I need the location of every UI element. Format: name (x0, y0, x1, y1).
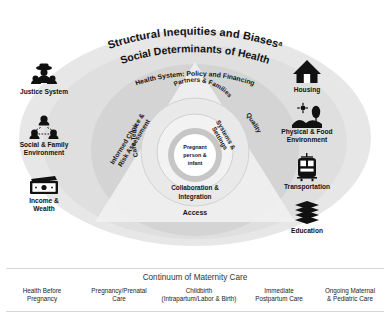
continuum-stage-line1: Health Before (6, 287, 78, 295)
core-label-line1: Pregnant (183, 144, 207, 150)
money-banknote-icon (30, 176, 58, 194)
determinant-line1: Transportation (264, 183, 350, 191)
ring-label-collaboration: Collaboration & (171, 184, 219, 191)
continuum-stage-4: Immediate Postpartum Care (243, 287, 315, 303)
determinant-line1: Justice System (1, 88, 87, 96)
continuum-stage-1: Health Before Pregnancy (6, 287, 78, 303)
ring-label-integration: Integration (178, 193, 211, 201)
continuum-top-rule (6, 268, 384, 269)
continuum-stage-line1: Childbirth (156, 287, 242, 295)
core-label-line2: person & (183, 152, 206, 158)
continuum-stage-line2: Pregnancy (6, 295, 78, 303)
determinant-line2: Environment (264, 136, 350, 144)
determinant-label-housing: Housing (264, 86, 350, 94)
determinant-line2: Environment (1, 149, 87, 157)
diagram-canvas: Structural Inequities and Biasesa Social… (0, 0, 390, 319)
determinant-label-physical-food: Physical & Food Environment (264, 128, 350, 144)
determinant-line1: Housing (264, 86, 350, 94)
continuum-stage-line2: Postpartum Care (243, 295, 315, 303)
determinant-line1: Education (264, 227, 350, 235)
determinant-label-social-family: Social & Family Environment (1, 141, 87, 157)
core-label-line3: infant (188, 160, 203, 166)
continuum-stage-line1: Ongoing Maternal (313, 287, 387, 295)
continuum-stage-line2: & Pediatric Care (313, 295, 387, 303)
determinant-label-income-wealth: Income & Wealth (1, 197, 87, 213)
continuum-stage-line2: (Intrapartum/Labor & Birth) (156, 295, 242, 303)
triangle-bottom-label: Access (183, 209, 208, 216)
determinant-label-transportation: Transportation (264, 183, 350, 191)
continuum-stage-line1: Immediate (243, 287, 315, 295)
determinant-line1: Physical & Food (264, 128, 350, 136)
continuum-bottom-rule (6, 311, 384, 312)
determinant-line2: Wealth (1, 205, 87, 213)
continuum-title: Continuum of Maternity Care (0, 273, 390, 282)
determinant-label-justice-system: Justice System (1, 88, 87, 96)
continuum-stage-line1: Pregnancy/Prenatal (78, 287, 160, 295)
continuum-stage-2: Pregnancy/Prenatal Care (78, 287, 160, 303)
continuum-stage-3: Childbirth (Intrapartum/Labor & Birth) (156, 287, 242, 303)
determinant-label-education: Education (264, 227, 350, 235)
continuum-stage-line2: Care (78, 295, 160, 303)
continuum-stage-5: Ongoing Maternal & Pediatric Care (313, 287, 387, 303)
determinant-line1: Income & (1, 197, 87, 205)
determinant-line1: Social & Family (1, 141, 87, 149)
police-officer-icon (31, 64, 57, 85)
